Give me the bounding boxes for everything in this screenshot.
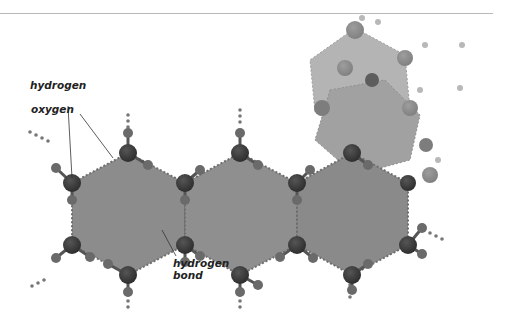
label-hydrogen-bond: hydrogen bond: [173, 257, 229, 281]
ice-lattice-diagram: hydrogen oxygen hydrogen bond: [0, 0, 507, 320]
hexagon-rings: [72, 153, 408, 275]
back-layer: [310, 15, 465, 183]
label-hydrogen: hydrogen: [30, 79, 86, 91]
label-hydrogen-bond-line1: hydrogen: [173, 257, 229, 269]
lattice-graphic: [0, 0, 507, 320]
label-hydrogen-bond-line2: bond: [173, 269, 229, 281]
label-oxygen: oxygen: [31, 103, 74, 115]
